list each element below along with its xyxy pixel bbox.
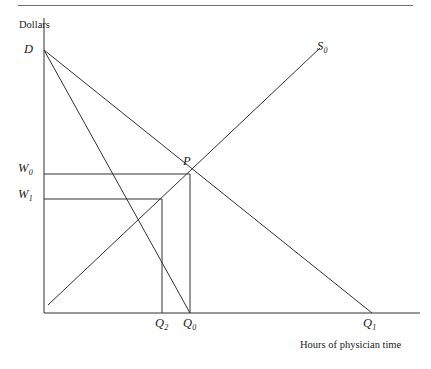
supply-curve-label: S0 [317,40,327,53]
economics-diagram [0,0,431,369]
quantity-q1-label-sub: 1 [372,323,376,332]
wage-w0-label-text: W [18,161,28,175]
quantity-q1-label: Q1 [363,317,376,330]
wage-w0-label: W0 [18,162,32,175]
equilibrium-point-label: P [183,155,191,168]
demand-curve-line [44,50,372,313]
y-axis-label: Dollars [19,20,50,31]
quantity-q2-label-sub: 2 [164,323,168,332]
quantity-q0-label-sub: 0 [192,323,196,332]
wage-w1-label-text: W [18,187,28,201]
quantity-q0-label: Q0 [183,317,196,330]
demand-curve-label: D [24,43,33,56]
quantity-q2-label: Q2 [155,317,168,330]
x-axis-label: Hours of physician time [300,340,401,351]
quantity-q0-label-text: Q [183,316,192,330]
wage-w1-label-sub: 1 [29,194,33,203]
quantity-q1-label-text: Q [363,316,372,330]
supply-curve-label-sub: 0 [324,46,328,55]
demand-curve-label-text: D [24,42,33,56]
supply-curve-label-text: S [317,39,323,53]
figure-root: Dollars Hours of physician time D S0 P W… [0,0,431,369]
wage-w1-label: W1 [18,188,32,201]
equilibrium-point-label-text: P [183,154,191,168]
marginal-revenue-line [44,50,190,313]
wage-w0-label-sub: 0 [29,168,33,177]
quantity-q2-label-text: Q [155,316,164,330]
